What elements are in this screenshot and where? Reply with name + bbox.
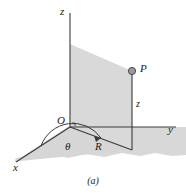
radius-label: R — [95, 141, 102, 152]
z-axis-label: z — [60, 6, 64, 17]
figure-caption: (a) — [0, 175, 186, 186]
height-label: z — [136, 99, 140, 109]
point-p-label: P — [140, 63, 147, 74]
coordinate-system-diagram — [0, 0, 186, 193]
x-axis-label: x — [13, 162, 18, 173]
y-axis-label: y — [168, 124, 173, 135]
origin-label: O — [57, 115, 65, 126]
theta-angle-label: θ — [65, 141, 70, 152]
point-p-marker — [128, 67, 135, 74]
figure-container: z y x O P θ R z (a) — [0, 0, 186, 193]
